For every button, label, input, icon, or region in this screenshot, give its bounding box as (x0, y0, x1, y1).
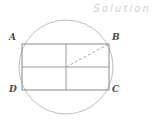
solution-watermark: Solution (93, 3, 151, 14)
vertex-label-c: C (112, 85, 119, 94)
geometry-figure: Solution A B C D (0, 0, 155, 122)
vertex-label-d: D (9, 85, 17, 94)
vertex-label-b: B (112, 33, 120, 42)
center-to-b-dashed-radius (66, 44, 109, 67)
vertex-label-a: A (9, 33, 16, 42)
figure-canvas (0, 0, 155, 122)
